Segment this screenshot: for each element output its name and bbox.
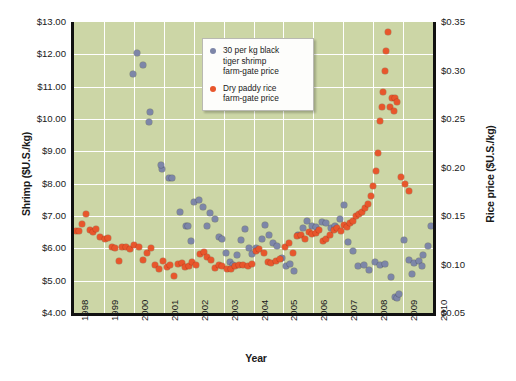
data-point-shrimp [234, 252, 240, 258]
x-axis-tick-label: 2007 [348, 281, 359, 321]
data-point-shrimp [388, 274, 394, 280]
data-point-rice [261, 250, 267, 256]
data-point-shrimp [262, 222, 268, 228]
y-axis-right-spine [433, 22, 436, 316]
circle-rice-icon [210, 86, 216, 92]
data-point-rice [156, 266, 162, 272]
data-point-rice [79, 221, 85, 227]
data-point-rice [93, 226, 99, 232]
data-point-rice [76, 228, 82, 234]
x-axis-tick-label: 2006 [318, 281, 329, 321]
legend-item-shrimp: 30 per kg black tiger shrimp farm-gate p… [210, 45, 305, 77]
data-point-shrimp [196, 197, 202, 203]
data-point-rice [171, 273, 177, 279]
data-point-shrimp [291, 268, 297, 274]
y-axis-left-tick-label: $13.00 [12, 16, 66, 27]
y-axis-right-tick-label: $0.15 [441, 210, 495, 221]
circle-shrimp-icon [210, 48, 216, 54]
y-axis-left-tick-label: $9.00 [12, 145, 66, 156]
x-axis-tick-label: 2008 [378, 281, 389, 321]
data-point-rice [105, 235, 111, 241]
data-point-shrimp [409, 271, 415, 277]
data-point-shrimp [366, 267, 372, 273]
data-point-rice [379, 104, 385, 110]
data-point-shrimp [350, 248, 356, 254]
gridline-vertical [134, 22, 135, 313]
data-point-rice [277, 256, 283, 262]
legend-label-rice: Dry paddy rice farm-gate price [223, 83, 279, 104]
data-point-rice [208, 257, 214, 263]
chart-legend: 30 per kg black tiger shrimp farm-gate p… [202, 38, 314, 111]
data-point-rice [286, 240, 292, 246]
data-point-shrimp [242, 226, 248, 232]
legend-item-rice: Dry paddy rice farm-gate price [210, 83, 305, 104]
data-point-shrimp [204, 223, 210, 229]
x-axis-tick-label: 2004 [259, 281, 270, 321]
data-point-shrimp [140, 62, 146, 68]
data-point-rice [373, 168, 379, 174]
y-axis-right-title: Rice price ($U.S./kg) [484, 104, 496, 244]
data-point-shrimp [266, 232, 272, 238]
data-point-rice [402, 181, 408, 187]
data-point-shrimp [200, 204, 206, 210]
y-axis-left-tick-label: $6.00 [12, 242, 66, 253]
y-axis-left-tick-label: $7.00 [12, 210, 66, 221]
data-point-rice [116, 258, 122, 264]
data-point-shrimp [185, 223, 191, 229]
data-point-shrimp [223, 250, 229, 256]
x-axis-tick-label: 2002 [199, 281, 210, 321]
y-axis-right-tick-label: $0.25 [441, 113, 495, 124]
data-point-rice [385, 29, 391, 35]
x-axis-tick-label: 2005 [288, 281, 299, 321]
data-point-rice [193, 262, 199, 268]
x-axis-tick-label: 2000 [139, 281, 150, 321]
y-axis-left-tick-label: $11.00 [12, 81, 66, 92]
data-point-rice [112, 245, 118, 251]
y-axis-left-tick-label: $5.00 [12, 275, 66, 286]
gridline-vertical [403, 22, 404, 313]
data-point-rice [365, 201, 371, 207]
chart-figure: Shrimp ($U.S./kg) Rice price ($U.S./kg) … [0, 0, 516, 381]
y-axis-right-tick-label: $0.05 [441, 307, 495, 318]
data-point-shrimp [420, 252, 426, 258]
y-axis-left-tick-label: $12.00 [12, 48, 66, 59]
y-axis-left-spine [71, 22, 74, 316]
x-axis-tick-label: 2001 [169, 281, 180, 321]
data-point-rice [338, 228, 344, 234]
x-axis-tick-label: 1998 [79, 281, 90, 321]
x-axis-tick-label: 2010 [438, 281, 449, 321]
data-point-rice [368, 193, 374, 199]
data-point-rice [377, 118, 383, 124]
legend-label-shrimp: 30 per kg black tiger shrimp farm-gate p… [223, 45, 279, 77]
data-point-shrimp [212, 216, 218, 222]
data-point-shrimp [396, 291, 402, 297]
y-axis-right-tick-label: $0.20 [441, 162, 495, 173]
data-point-shrimp [259, 236, 265, 242]
y-axis-right-tick-label: $0.35 [441, 16, 495, 27]
x-axis-title: Year [196, 352, 316, 364]
data-point-shrimp [287, 261, 293, 267]
y-axis-left-tick-label: $10.00 [12, 113, 66, 124]
y-axis-left-tick-label: $8.00 [12, 178, 66, 189]
data-point-rice [394, 99, 400, 105]
data-point-rice [167, 262, 173, 268]
data-point-shrimp [345, 239, 351, 245]
gridline-vertical [104, 22, 105, 313]
data-point-shrimp [341, 202, 347, 208]
data-point-shrimp [425, 243, 431, 249]
x-axis-tick-label: 2003 [229, 281, 240, 321]
y-axis-right-tick-label: $0.30 [441, 65, 495, 76]
data-point-shrimp [207, 210, 213, 216]
data-point-rice [327, 232, 333, 238]
data-point-shrimp [419, 263, 425, 269]
y-axis-right-tick-label: $0.10 [441, 259, 495, 270]
x-axis-tick-label: 1999 [109, 281, 120, 321]
data-point-rice [370, 183, 376, 189]
y-axis-left-tick-label: $4.00 [12, 307, 66, 318]
data-point-rice [316, 227, 322, 233]
data-point-rice [148, 245, 154, 251]
data-point-shrimp [147, 109, 153, 115]
data-point-shrimp [219, 236, 225, 242]
data-point-rice [380, 89, 386, 95]
data-point-shrimp [382, 261, 388, 267]
